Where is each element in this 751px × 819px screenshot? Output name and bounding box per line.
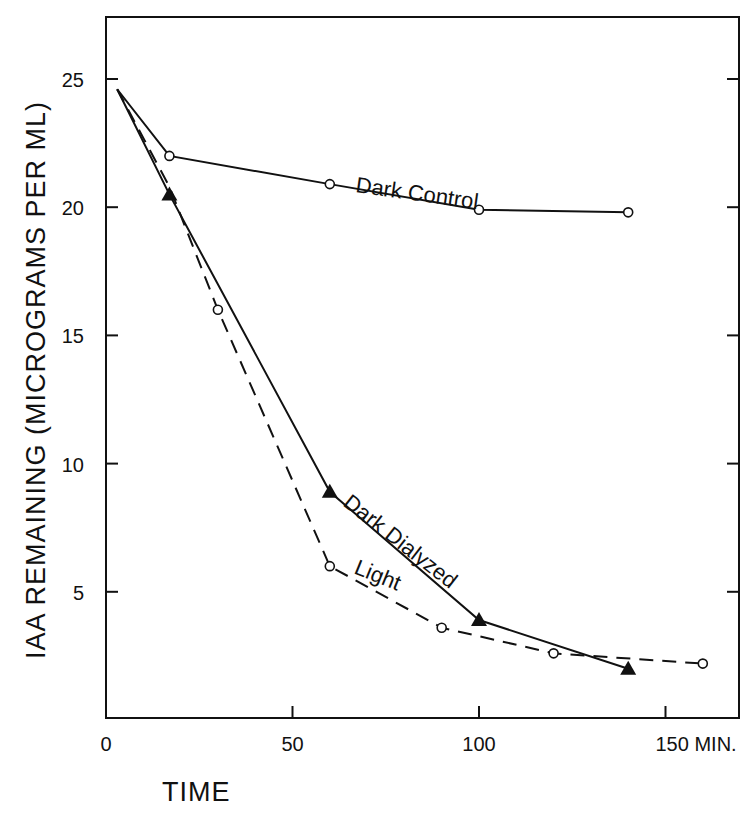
y-tick-label: 10 (62, 454, 84, 476)
open-circle-marker (325, 180, 334, 189)
y-axis-label: IAA REMAINING (MICROGRAMS PER ML) (8, 70, 64, 690)
open-circle-marker (624, 208, 633, 217)
open-circle-marker (325, 562, 334, 571)
x-tick-label: 0 (100, 733, 111, 755)
x-tick-label: 100 (462, 733, 495, 755)
x-tick-label: 150 MIN. (656, 733, 737, 755)
open-circle-marker (549, 649, 558, 658)
y-tick-label: 25 (62, 69, 84, 91)
open-circle-marker (698, 659, 707, 668)
open-circle-marker (437, 623, 446, 632)
series-annotation: Dark Control (354, 172, 480, 214)
filled-triangle-marker (322, 484, 338, 498)
y-tick-label: 5 (73, 582, 84, 604)
series-annotation: Light (351, 554, 405, 595)
y-tick-label: 15 (62, 325, 84, 347)
x-axis-label: TIME (162, 777, 231, 808)
open-circle-marker (213, 305, 222, 314)
x-tick-label: 50 (281, 733, 303, 755)
open-circle-marker (165, 151, 174, 160)
plot-frame (106, 17, 739, 718)
y-tick-label: 20 (62, 197, 84, 219)
chart-canvas: 510152025050100150 MIN.Dark ControlDark … (0, 0, 751, 819)
series-line-light (117, 89, 703, 663)
